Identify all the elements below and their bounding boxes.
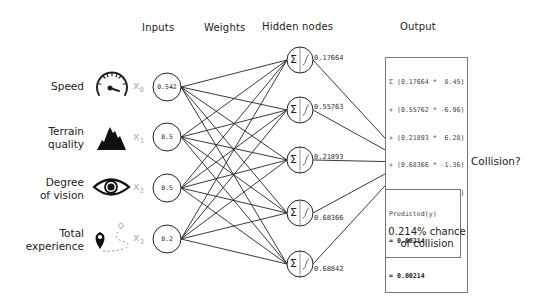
hidden-value-0: 0.17664 — [314, 54, 344, 62]
input-label-line: Degree — [4, 176, 84, 189]
sigma-icon: Σ — [290, 53, 297, 66]
input-node-value-1: 0.5 — [153, 133, 181, 141]
input-node-value-2: 0.5 — [153, 184, 181, 192]
input-label-line: quality — [4, 138, 84, 151]
header-weights: Weights — [204, 22, 245, 33]
hidden-value-1: 0.55763 — [314, 103, 344, 111]
hidden-value-2: 0.21893 — [314, 153, 344, 161]
input-label-line: Total — [4, 227, 84, 240]
input-label-experience: Total experience — [4, 227, 84, 253]
input-to-hidden-connections — [181, 60, 287, 264]
connections-from-x0 — [181, 60, 287, 264]
equation-line: + (0.55762 * -6.96) — [389, 106, 464, 115]
input-node-value-0: 0.542 — [153, 83, 181, 91]
header-hidden-nodes: Hidden nodes — [262, 21, 333, 32]
collision-question: Collision? — [471, 155, 521, 167]
input-var-x1: x1 — [133, 130, 144, 145]
eye-icon — [94, 180, 129, 195]
sigma-icon: Σ — [290, 103, 297, 116]
input-label-line: Speed — [4, 80, 84, 93]
equation-line: Σ (0.17664 * 8.45) — [389, 78, 464, 87]
equation-result: = 0.00214 — [389, 272, 464, 281]
input-var-x2: x2 — [133, 180, 144, 195]
input-var-x3: x3 — [133, 231, 144, 246]
chance-line: of collision — [382, 238, 472, 250]
map-pin-route-icon — [96, 223, 129, 251]
sigma-icon: Σ — [290, 206, 297, 219]
equation-line: + (0.68366 * -1.36) — [389, 161, 464, 170]
hidden-value-4: 0.68842 — [314, 265, 344, 273]
header-inputs: Inputs — [142, 22, 174, 33]
predicted-label: Predicted(y) — [389, 210, 457, 219]
mountain-icon — [97, 127, 126, 150]
input-label-vision: Degree of vision — [4, 176, 84, 202]
hidden-value-3: 0.68366 — [314, 214, 344, 222]
input-label-speed: Speed — [4, 80, 84, 93]
input-label-line: Terrain — [4, 125, 84, 138]
input-node-value-3: 0.2 — [153, 235, 181, 243]
input-label-line: experience — [4, 240, 84, 253]
speedometer-icon — [97, 73, 127, 95]
input-label-terrain: Terrain quality — [4, 125, 84, 151]
collision-chance-text: 0.214% chance of collision — [382, 226, 472, 250]
chance-line: 0.214% chance — [382, 226, 472, 238]
equation-line: + (0.21893 * 6.28) — [389, 134, 464, 143]
sigma-icon: Σ — [290, 153, 297, 166]
input-nodes — [153, 73, 181, 253]
input-label-line: of vision — [4, 189, 84, 202]
input-var-x0: x0 — [133, 79, 144, 94]
sigma-icon: Σ — [290, 257, 297, 270]
header-output: Output — [400, 21, 436, 32]
